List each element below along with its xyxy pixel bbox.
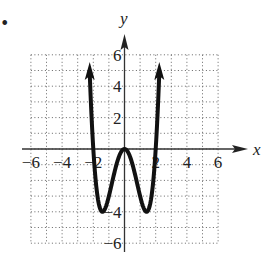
svg-text:−4: −4 <box>53 153 72 172</box>
svg-text:−6: −6 <box>103 234 121 253</box>
svg-text:−6: −6 <box>22 153 40 172</box>
axes <box>22 34 248 252</box>
svg-text:4: 4 <box>113 77 122 96</box>
function-graph: −6−4−2246642−4−6 x y <box>0 0 269 264</box>
x-axis-label: x <box>252 140 261 159</box>
svg-text:6: 6 <box>214 153 223 172</box>
y-axis-label: y <box>118 9 128 28</box>
svg-text:6: 6 <box>113 46 122 65</box>
svg-text:4: 4 <box>183 153 192 172</box>
svg-text:2: 2 <box>113 109 122 128</box>
